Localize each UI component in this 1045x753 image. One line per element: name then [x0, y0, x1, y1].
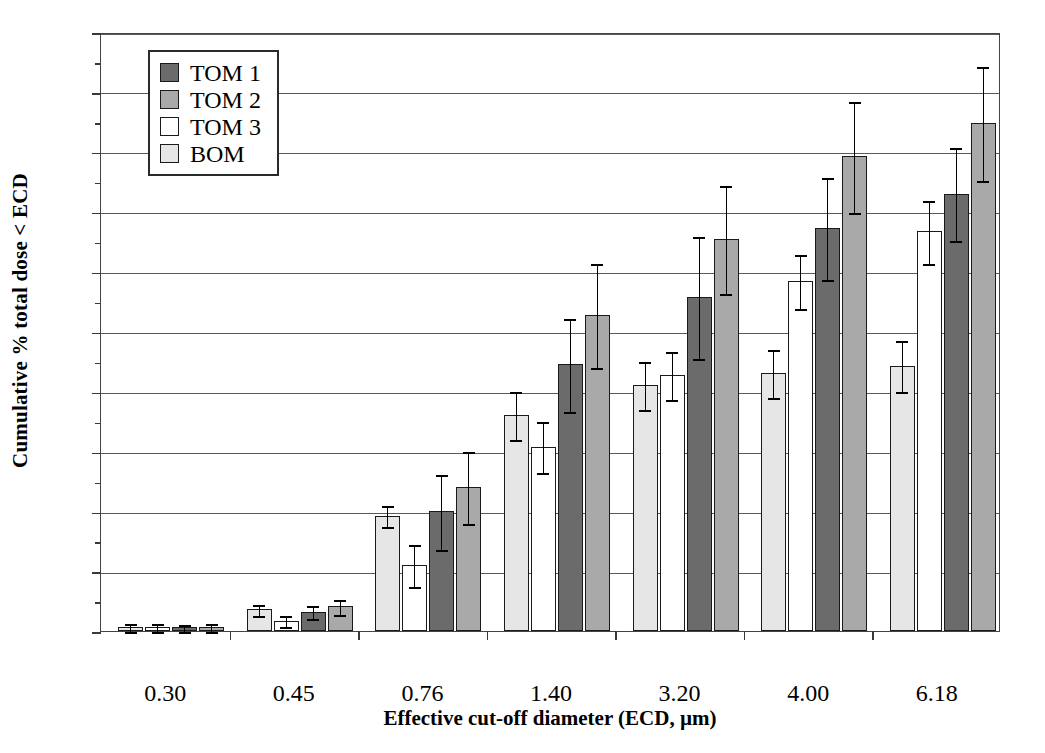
- error-bar-cap-upper: [564, 319, 576, 321]
- legend-item: TOM 2: [160, 86, 261, 113]
- error-bar-line: [543, 423, 544, 474]
- error-bar-line: [387, 507, 388, 528]
- error-bar-cap-lower: [564, 412, 576, 414]
- error-bar-cap-upper: [125, 624, 137, 626]
- error-bar-line: [645, 363, 646, 411]
- x-axis-category-label: 0.45: [219, 680, 369, 707]
- legend-swatch-tom-2: [160, 90, 179, 109]
- y-axis-tick: [92, 273, 101, 274]
- error-bar-cap-lower: [280, 627, 292, 629]
- error-bar-cap-upper: [591, 264, 603, 266]
- error-bar-cap-lower: [510, 440, 522, 442]
- error-bar-cap-lower: [822, 280, 834, 282]
- error-bar-cap-upper: [436, 475, 448, 477]
- error-bar-line: [827, 179, 828, 281]
- x-axis-title: Effective cut-off diameter (ECD, µm): [100, 706, 1000, 731]
- error-bar-cap-upper: [977, 67, 989, 69]
- error-bar-cap-lower: [463, 524, 475, 526]
- error-bar-line: [902, 342, 903, 393]
- error-bar-cap-upper: [280, 616, 292, 618]
- error-bar-cap-upper: [537, 422, 549, 424]
- error-bar-cap-upper: [950, 148, 962, 150]
- error-bar-cap-lower: [666, 400, 678, 402]
- error-bar-line: [597, 265, 598, 370]
- bar-tom-3: [660, 375, 685, 631]
- error-bar-cap-upper: [822, 178, 834, 180]
- y-axis-title-text: Cumulative % total dose < ECD: [8, 173, 33, 468]
- bar-bom: [633, 385, 658, 631]
- error-bar-cap-lower: [720, 294, 732, 296]
- x-axis-category-label: 6.18: [862, 680, 1012, 707]
- error-bar-cap-upper: [463, 452, 475, 454]
- error-bar-cap-upper: [639, 362, 651, 364]
- bar-group: [872, 34, 1001, 631]
- error-bar-cap-lower: [382, 527, 394, 529]
- bar-group: [358, 34, 487, 631]
- error-bar-line: [441, 476, 442, 551]
- bar-tom-2: [842, 156, 867, 631]
- x-axis-tick: [487, 631, 488, 640]
- error-bar-cap-lower: [179, 632, 191, 634]
- bar-bom: [890, 366, 915, 631]
- error-bar-cap-upper: [382, 506, 394, 508]
- bar-group: [744, 34, 873, 631]
- error-bar-line: [672, 353, 673, 401]
- y-axis-title: Cumulative % total dose < ECD: [0, 0, 40, 640]
- error-bar-line: [414, 546, 415, 588]
- chart-legend: TOM 1TOM 2TOM 3BOM: [148, 50, 279, 176]
- legend-item: TOM 3: [160, 113, 261, 140]
- error-bar-cap-lower: [639, 410, 651, 412]
- error-bar-cap-lower: [977, 181, 989, 183]
- error-bar-cap-lower: [537, 473, 549, 475]
- error-bar-line: [726, 187, 727, 295]
- bar-bom: [504, 415, 529, 631]
- x-axis-category-label: 4.00: [733, 680, 883, 707]
- error-bar-cap-lower: [849, 213, 861, 215]
- legend-item: BOM: [160, 140, 261, 167]
- error-bar-cap-lower: [795, 309, 807, 311]
- legend-item-label: TOM 3: [190, 115, 261, 139]
- error-bar-line: [854, 103, 855, 214]
- y-axis-tick: [92, 33, 101, 34]
- y-axis-tick: [92, 453, 101, 454]
- y-axis-tick: [92, 153, 101, 154]
- bar-tom-2: [714, 239, 739, 631]
- error-bar-cap-upper: [768, 350, 780, 352]
- error-bar-line: [983, 68, 984, 182]
- error-bar-cap-lower: [152, 632, 164, 634]
- error-bar-cap-lower: [591, 368, 603, 370]
- y-axis-tick: [92, 93, 101, 94]
- bar-tom-1: [815, 228, 840, 631]
- x-axis-category-label: 1.40: [476, 680, 626, 707]
- x-axis-tick: [744, 631, 745, 640]
- bar-chart-figure: Cumulative % total dose < ECD 0246810121…: [0, 0, 1045, 753]
- x-axis-category-label: 0.30: [90, 680, 240, 707]
- x-axis-category-label: 3.20: [605, 680, 755, 707]
- y-axis-tick: [92, 393, 101, 394]
- error-bar-cap-upper: [253, 605, 265, 607]
- legend-item: TOM 1: [160, 59, 261, 86]
- error-bar-cap-upper: [206, 624, 218, 626]
- error-bar-cap-upper: [179, 625, 191, 627]
- error-bar-cap-upper: [693, 237, 705, 239]
- legend-item-label: TOM 2: [190, 88, 261, 112]
- error-bar-cap-upper: [666, 352, 678, 354]
- error-bar-cap-upper: [795, 255, 807, 257]
- bar-tom-2: [971, 123, 996, 631]
- error-bar-line: [699, 238, 700, 361]
- error-bar-cap-upper: [409, 545, 421, 547]
- error-bar-cap-upper: [896, 341, 908, 343]
- error-bar-cap-upper: [849, 102, 861, 104]
- bar-group: [615, 34, 744, 631]
- error-bar-cap-upper: [720, 186, 732, 188]
- x-axis-tick: [872, 631, 873, 640]
- x-axis-tick: [358, 631, 359, 640]
- bar-bom: [761, 373, 786, 631]
- error-bar-line: [773, 351, 774, 399]
- bar-tom-3: [917, 231, 942, 631]
- error-bar-line: [570, 320, 571, 413]
- x-axis-category-label: 0.76: [347, 680, 497, 707]
- error-bar-line: [929, 202, 930, 265]
- y-axis-tick: [92, 572, 101, 573]
- error-bar-cap-upper: [923, 201, 935, 203]
